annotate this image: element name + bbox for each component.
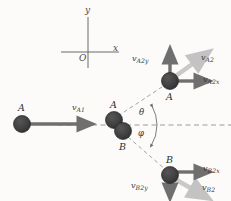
ball-label-b-final: B — [166, 155, 173, 165]
trajectory-b-dashed-line — [128, 137, 166, 170]
vector-label-v-b2-subscript: B2 — [207, 186, 216, 193]
vector-label-v-a2y-subscript: A2y — [137, 57, 149, 64]
vector-v-b2-arrow — [173, 178, 201, 194]
collision-diagram: y x O A A B A B θ φ vA1 vA2y vA2 vA2x vB… — [0, 0, 231, 201]
ball-label-a-initial: A — [18, 103, 25, 113]
axis-label-x: x — [113, 44, 118, 53]
vector-label-v-a2x: vA2x — [203, 76, 220, 85]
axis-label-y: y — [85, 6, 90, 15]
angle-arc-phi — [151, 125, 157, 146]
vector-label-v-a1-subscript: A1 — [77, 106, 86, 113]
vector-label-v-b2x-subscript: B2x — [208, 167, 220, 174]
ball-b-collision — [115, 123, 132, 140]
coordinate-axes — [61, 17, 119, 68]
vector-label-v-a2: vA2 — [201, 54, 214, 63]
vector-label-v-a2y: vA2y — [132, 55, 149, 64]
ball-a-initial — [14, 116, 31, 133]
vector-label-v-b2: vB2 — [202, 184, 215, 193]
ball-label-a-final: A — [166, 92, 173, 102]
vector-label-v-a2-subscript: A2 — [206, 56, 215, 63]
angle-arc-theta — [152, 106, 157, 125]
ball-label-a-collision: A — [110, 100, 117, 110]
ball-label-b-collision: B — [119, 142, 126, 152]
vector-label-v-a1: vA1 — [72, 104, 85, 113]
ball-a-final — [162, 73, 179, 90]
ball-b-final — [162, 167, 179, 184]
vector-label-v-b2y: vB2y — [131, 182, 148, 191]
angle-label-phi: φ — [138, 129, 144, 138]
axis-origin-label: O — [79, 54, 86, 63]
angle-label-theta: θ — [139, 108, 144, 117]
vector-label-v-b2y-subscript: B2y — [136, 184, 148, 191]
vector-v-a2-arrow — [173, 57, 202, 78]
vector-label-v-b2x: vB2x — [203, 165, 220, 174]
vector-label-v-a2x-subscript: A2x — [208, 78, 220, 85]
